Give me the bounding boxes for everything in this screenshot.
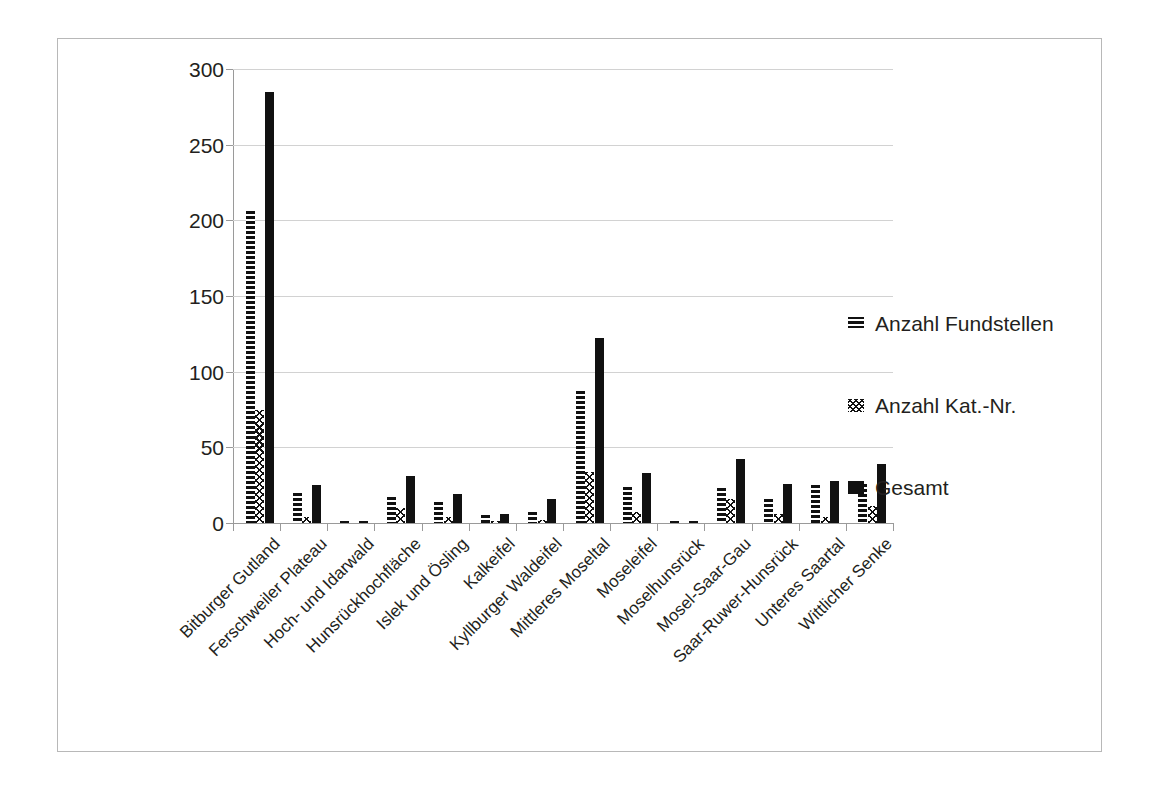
bar[interactable] xyxy=(642,473,651,523)
bar[interactable] xyxy=(340,521,349,523)
x-tick-mark xyxy=(752,523,753,531)
y-tick-label-150: 150 xyxy=(189,286,224,307)
legend-swatch-icon xyxy=(848,399,864,412)
bar-group xyxy=(563,69,610,523)
bar-series-container xyxy=(233,69,893,523)
bar[interactable] xyxy=(576,391,585,523)
legend-item[interactable]: Gesamt xyxy=(848,475,1098,500)
bar[interactable] xyxy=(528,512,537,523)
y-tick-label-0: 0 xyxy=(212,513,224,534)
x-tick-mark xyxy=(233,523,234,531)
plot-area: 050100150200250300 Bitburger GutlandFers… xyxy=(233,69,893,523)
bar[interactable] xyxy=(434,502,443,523)
bar[interactable] xyxy=(246,211,255,523)
x-tick-mark xyxy=(704,523,705,531)
legend-label: Gesamt xyxy=(875,476,949,500)
x-tick-mark xyxy=(327,523,328,531)
legend-swatch-icon xyxy=(848,481,864,494)
bar[interactable] xyxy=(783,484,792,523)
chart-frame: 050100150200250300 Bitburger GutlandFers… xyxy=(57,38,1102,752)
bar[interactable] xyxy=(717,488,726,523)
x-tick-mark xyxy=(280,523,281,531)
bar-group xyxy=(799,69,846,523)
bar[interactable] xyxy=(491,521,500,523)
bar[interactable] xyxy=(453,494,462,523)
chart-legend: Anzahl FundstellenAnzahl Kat.-Nr.Gesamt xyxy=(848,311,1098,557)
bar-group xyxy=(657,69,704,523)
bar-group xyxy=(704,69,751,523)
y-tick-mark-0 xyxy=(226,523,233,524)
bar[interactable] xyxy=(689,521,698,523)
bar[interactable] xyxy=(736,459,745,523)
bar[interactable] xyxy=(632,512,641,523)
y-tick-label-100: 100 xyxy=(189,361,224,382)
bar[interactable] xyxy=(774,514,783,523)
bar[interactable] xyxy=(302,517,311,523)
bar[interactable] xyxy=(670,521,679,523)
bar[interactable] xyxy=(764,499,773,523)
bar[interactable] xyxy=(387,497,396,523)
x-tick-mark xyxy=(799,523,800,531)
y-tick-label-200: 200 xyxy=(189,210,224,231)
bar[interactable] xyxy=(312,485,321,523)
bar[interactable] xyxy=(547,499,556,523)
y-tick-mark-200 xyxy=(226,220,233,221)
y-tick-mark-100 xyxy=(226,372,233,373)
x-tick-mark xyxy=(516,523,517,531)
bar[interactable] xyxy=(811,485,820,523)
legend-swatch-icon xyxy=(848,317,864,330)
bar-group xyxy=(610,69,657,523)
bar[interactable] xyxy=(500,514,509,523)
y-tick-mark-50 xyxy=(226,447,233,448)
bar-group xyxy=(752,69,799,523)
bar[interactable] xyxy=(538,520,547,523)
legend-label: Anzahl Kat.-Nr. xyxy=(875,394,1016,418)
bar[interactable] xyxy=(623,487,632,523)
x-tick-mark xyxy=(610,523,611,531)
bar-group xyxy=(233,69,280,523)
x-tick-mark xyxy=(469,523,470,531)
y-tick-label-250: 250 xyxy=(189,134,224,155)
bar[interactable] xyxy=(396,508,405,523)
bar[interactable] xyxy=(585,472,594,523)
y-tick-label-50: 50 xyxy=(201,437,224,458)
bar[interactable] xyxy=(406,476,415,523)
bar[interactable] xyxy=(255,410,264,524)
bar[interactable] xyxy=(481,515,490,523)
x-tick-mark xyxy=(422,523,423,531)
bar[interactable] xyxy=(595,338,604,523)
x-tick-mark xyxy=(657,523,658,531)
legend-label: Anzahl Fundstellen xyxy=(875,312,1054,336)
bar-group xyxy=(280,69,327,523)
x-tick-mark xyxy=(846,523,847,531)
legend-item[interactable]: Anzahl Fundstellen xyxy=(848,311,1098,336)
bar-group xyxy=(327,69,374,523)
x-tick-mark xyxy=(374,523,375,531)
bar[interactable] xyxy=(726,499,735,523)
bar[interactable] xyxy=(821,517,830,523)
bar[interactable] xyxy=(444,517,453,523)
bar-group xyxy=(516,69,563,523)
y-tick-label-300: 300 xyxy=(189,59,224,80)
x-tick-mark xyxy=(563,523,564,531)
bar[interactable] xyxy=(265,92,274,523)
bar-group xyxy=(374,69,421,523)
bar[interactable] xyxy=(359,521,368,523)
bar-group xyxy=(469,69,516,523)
bar-group xyxy=(422,69,469,523)
legend-item[interactable]: Anzahl Kat.-Nr. xyxy=(848,393,1098,418)
y-tick-mark-250 xyxy=(226,145,233,146)
y-tick-mark-150 xyxy=(226,296,233,297)
bar[interactable] xyxy=(830,481,839,523)
bar[interactable] xyxy=(293,493,302,523)
y-tick-mark-300 xyxy=(226,69,233,70)
